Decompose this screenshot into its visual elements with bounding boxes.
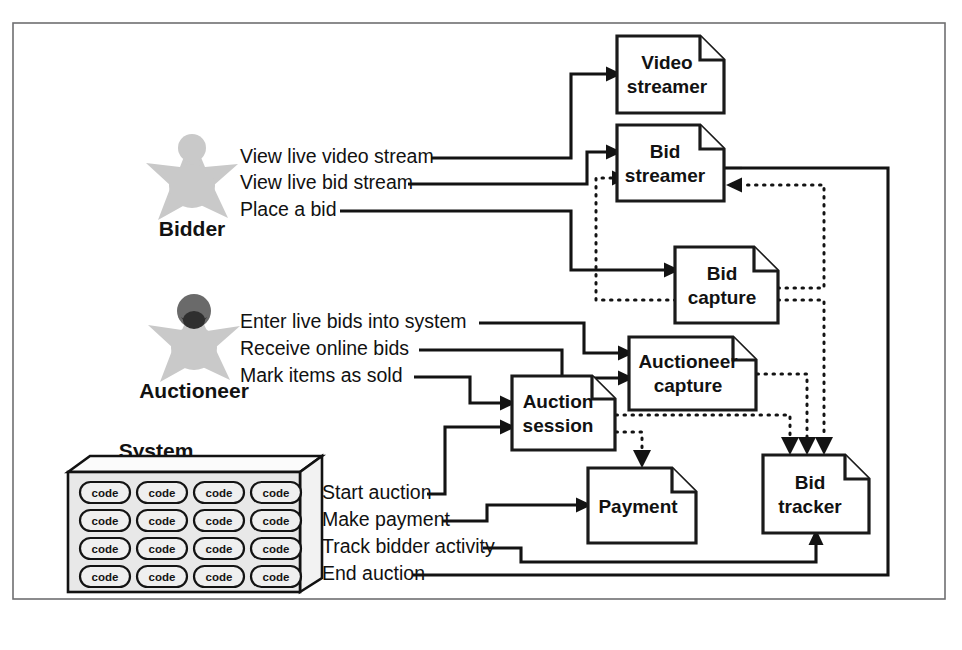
component-label-line: Bid <box>650 141 681 162</box>
code-pill-label: code <box>149 515 176 527</box>
code-pill-label: code <box>263 543 290 555</box>
code-pill-label: code <box>206 515 233 527</box>
component-label-line: Payment <box>598 496 678 517</box>
component-label-line: capture <box>688 287 757 308</box>
use-case-view-live-bid-stream[interactable]: View live bid stream <box>240 171 413 193</box>
use-case-end-auction[interactable]: End auction <box>322 562 425 584</box>
component-label-line: session <box>523 415 594 436</box>
component-label-line: capture <box>654 375 723 396</box>
code-pill-label: code <box>92 515 119 527</box>
component-auctioneer-capture[interactable]: Auctioneer capture <box>629 337 756 410</box>
use-case-receive-online-bids[interactable]: Receive online bids <box>240 337 409 359</box>
system-group: System code code code code <box>68 439 322 592</box>
component-label-line: streamer <box>627 76 708 97</box>
code-pill-label: code <box>263 487 290 499</box>
code-pill-label: code <box>92 543 119 555</box>
code-pill-label: code <box>263 515 290 527</box>
use-case-view-live-video-stream[interactable]: View live video stream <box>240 145 434 167</box>
code-pill-label: code <box>206 571 233 583</box>
code-crate-icon: code code code code code code code <box>68 456 322 592</box>
component-payment[interactable]: Payment <box>588 468 696 543</box>
component-label-line: Video <box>641 52 692 73</box>
component-video-streamer[interactable]: Video streamer <box>617 36 724 113</box>
component-bid-tracker[interactable]: Bid tracker <box>763 455 869 533</box>
code-pill-label: code <box>92 571 119 583</box>
use-case-place-a-bid[interactable]: Place a bid <box>240 198 336 220</box>
code-pill-label: code <box>92 487 119 499</box>
auction-system-diagram: Bidder Auctioneer System <box>0 0 962 650</box>
component-bid-streamer[interactable]: Bid streamer <box>617 125 724 201</box>
use-case-start-auction[interactable]: Start auction <box>322 481 431 503</box>
code-pill-label: code <box>149 487 176 499</box>
component-label-line: Bid <box>795 472 826 493</box>
use-case-mark-items-as-sold[interactable]: Mark items as sold <box>240 364 403 386</box>
code-pill-label: code <box>149 543 176 555</box>
component-auction-session[interactable]: Auction session <box>512 376 615 450</box>
code-pill-label: code <box>263 571 290 583</box>
component-bid-capture[interactable]: Bid capture <box>675 247 778 323</box>
actor-auctioneer-label: Auctioneer <box>139 379 249 402</box>
use-case-track-bidder-activity[interactable]: Track bidder activity <box>322 535 495 557</box>
code-pill-label: code <box>149 571 176 583</box>
component-label-line: Bid <box>707 263 738 284</box>
use-case-enter-live-bids-into-system[interactable]: Enter live bids into system <box>240 310 467 332</box>
actor-bidder-label: Bidder <box>159 217 226 240</box>
use-case-make-payment[interactable]: Make payment <box>322 508 450 530</box>
component-label-line: streamer <box>625 165 706 186</box>
code-pill-label: code <box>206 543 233 555</box>
component-label-line: tracker <box>778 496 842 517</box>
diagram-canvas: Bidder Auctioneer System <box>0 0 962 650</box>
code-pill-label: code <box>206 487 233 499</box>
component-label-line: Auction <box>523 391 594 412</box>
component-label-line: Auctioneer <box>638 351 738 372</box>
